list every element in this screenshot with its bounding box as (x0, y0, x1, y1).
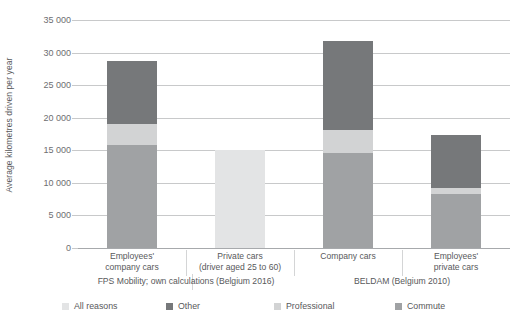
bar-segment-all-reasons (215, 150, 265, 248)
x-axis-category-label: Company cars (294, 251, 402, 262)
x-axis-category-label: Private cars(driver aged 25 to 60) (186, 251, 294, 272)
y-axis-tick-mark (72, 183, 78, 184)
x-axis-group-label: BELDAM (Belgium 2010) (294, 276, 510, 286)
y-axis-tick-label: 0 (66, 243, 71, 253)
legend-swatch-icon (274, 303, 281, 310)
legend-item[interactable]: All reasons (62, 301, 118, 311)
bar (323, 41, 373, 248)
bar-segment-other (107, 61, 157, 125)
legend-label: All reasons (74, 301, 118, 311)
legend-label: Commute (407, 301, 445, 311)
y-axis-tick-label: 25 000 (43, 80, 71, 90)
bar-segment-commute (431, 194, 481, 248)
legend-label: Professional (286, 301, 334, 311)
bar-segment-professional (323, 130, 373, 153)
plot-area: 05 00010 00015 00020 00025 00030 00035 0… (78, 20, 510, 248)
y-axis-tick-mark (72, 118, 78, 119)
y-axis-tick-mark (72, 215, 78, 216)
gridline (78, 20, 510, 21)
y-axis-tick-label: 10 000 (43, 178, 71, 188)
legend-item[interactable]: Other (166, 301, 200, 311)
x-axis-category-labels: Employees'company carsPrivate cars(drive… (78, 251, 510, 275)
y-axis-tick-label: 15 000 (43, 145, 71, 155)
y-axis-title: Average kilometres driven per year (0, 0, 18, 250)
bar-segment-commute (323, 153, 373, 248)
legend-label: Other (178, 301, 200, 311)
bar-segment-commute (107, 145, 157, 248)
y-axis-tick-label: 30 000 (43, 48, 71, 58)
bar-segment-professional (431, 188, 481, 194)
gridline (78, 248, 510, 249)
y-axis-tick-mark (72, 53, 78, 54)
legend-item[interactable]: Professional (274, 301, 334, 311)
y-axis-tick-mark (72, 85, 78, 86)
gridline (78, 53, 510, 54)
legend-swatch-icon (166, 303, 173, 310)
bar (107, 61, 157, 248)
x-axis-group-labels: FPS Mobility; own calculations (Belgium … (78, 276, 510, 290)
legend-item[interactable]: Commute (395, 301, 445, 311)
legend-swatch-icon (62, 303, 69, 310)
legend-swatch-icon (395, 303, 402, 310)
stacked-bar-chart: Average kilometres driven per year 05 00… (0, 0, 522, 324)
y-axis-tick-mark (72, 20, 78, 21)
bar-segment-professional (107, 124, 157, 145)
y-axis-tick-label: 5 000 (48, 210, 71, 220)
x-axis-category-label: Employees'private cars (402, 251, 510, 272)
bar (431, 135, 481, 248)
y-axis-title-text: Average kilometres driven per year (4, 57, 14, 192)
chart-legend: All reasonsOtherProfessionalCommute (62, 301, 502, 315)
y-axis-tick-mark (72, 150, 78, 151)
bar-segment-other (323, 41, 373, 130)
y-axis-tick-mark (72, 248, 78, 249)
bar (215, 150, 265, 248)
x-axis-group-label: FPS Mobility; own calculations (Belgium … (78, 276, 294, 286)
y-axis-tick-label: 35 000 (43, 15, 71, 25)
bar-segment-other (431, 135, 481, 188)
y-axis-tick-label: 20 000 (43, 113, 71, 123)
x-axis-category-label: Employees'company cars (78, 251, 186, 272)
